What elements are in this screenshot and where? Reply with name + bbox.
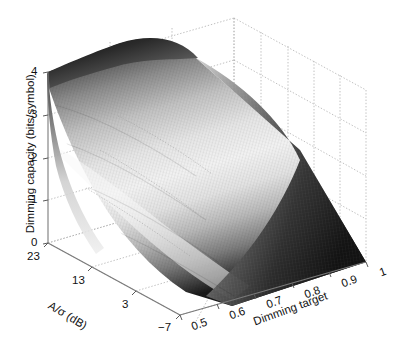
z-tick-3: 3 xyxy=(31,109,37,121)
surface-mesh xyxy=(47,38,366,306)
surface-plot-3d xyxy=(0,0,404,349)
x-tick-neg7: −7 xyxy=(158,322,171,334)
z-tick-1: 1 xyxy=(31,194,37,206)
z-tick-4: 4 xyxy=(31,66,37,78)
z-tick-2: 2 xyxy=(31,152,37,164)
figure-canvas: Dimming capacity (bits/symbol) 4 3 2 1 0… xyxy=(0,0,404,349)
x-tick-13: 13 xyxy=(72,275,85,287)
x-tick-23: 23 xyxy=(27,251,40,263)
x-tick-3: 3 xyxy=(122,299,128,311)
z-tick-0: 0 xyxy=(31,237,37,249)
